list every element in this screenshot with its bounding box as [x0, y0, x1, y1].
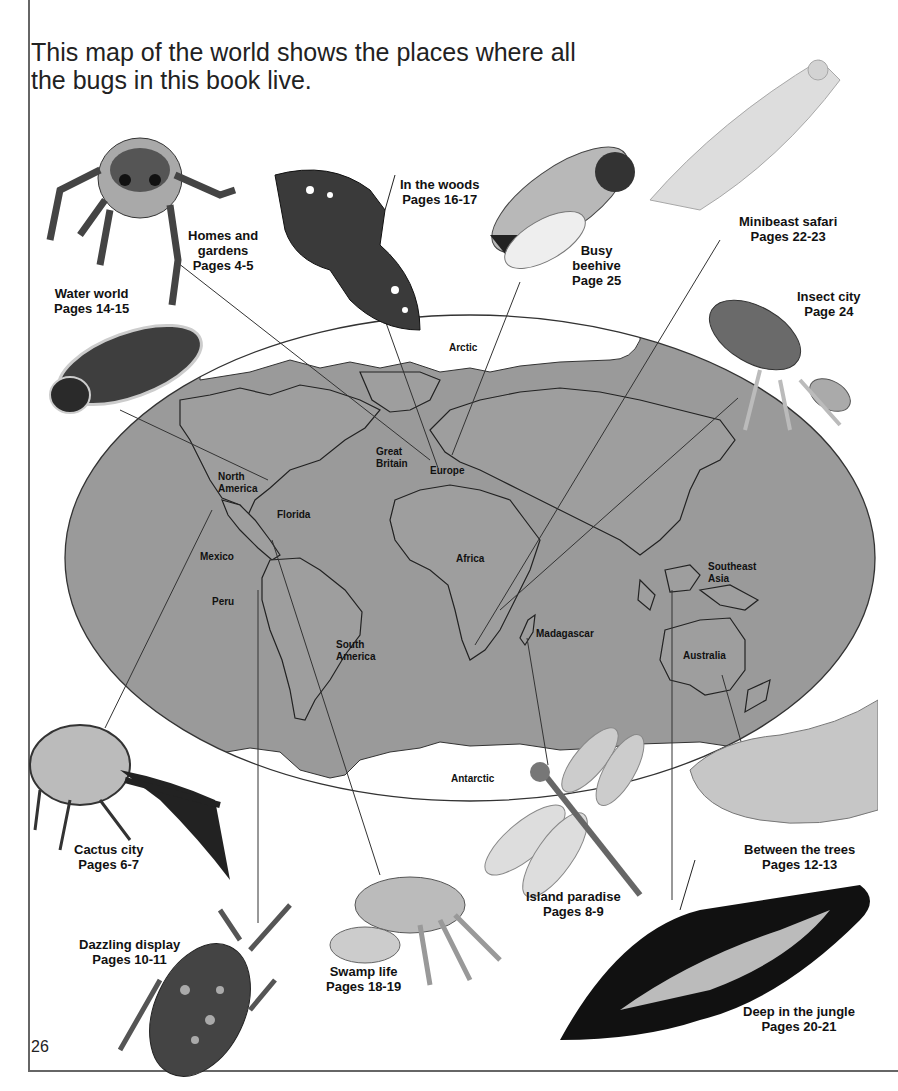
- region-north-america: North America: [218, 471, 257, 495]
- habitat-insect-city: Insect city Page 24: [797, 289, 861, 319]
- region-mexico: Mexico: [200, 551, 234, 563]
- region-southeast-asia: Southeast Asia: [708, 561, 756, 585]
- habitat-minibeast-safari: Minibeast safari Pages 22-23: [739, 214, 837, 244]
- orchid-mantis-illustration: [650, 60, 840, 210]
- region-south-america: South America: [336, 639, 375, 663]
- habitat-dazzling-display: Dazzling display Pages 10-11: [79, 937, 180, 967]
- region-great-britain: Great Britain: [376, 446, 408, 470]
- assassin-bug-illustration: [120, 905, 290, 1091]
- region-africa: Africa: [456, 553, 484, 565]
- region-peru: Peru: [212, 596, 234, 608]
- region-madagascar: Madagascar: [536, 628, 594, 640]
- jumping-spider-illustration: [50, 138, 235, 305]
- page-number: 26: [31, 1038, 49, 1056]
- region-australia: Australia: [683, 650, 726, 662]
- region-europe: Europe: [430, 465, 464, 477]
- habitat-deep-in-the-jungle: Deep in the jungle Pages 20-21: [743, 1004, 855, 1034]
- habitat-busy-beehive: Busy beehive Page 25: [572, 243, 621, 288]
- butterfly-illustration: [275, 170, 420, 330]
- region-arctic: Arctic: [449, 342, 477, 354]
- habitat-island-paradise: Island paradise Pages 8-9: [526, 889, 621, 919]
- habitat-between-the-trees: Between the trees Pages 12-13: [744, 842, 855, 872]
- habitat-cactus-city: Cactus city Pages 6-7: [74, 842, 143, 872]
- habitat-in-the-woods: In the woods Pages 16-17: [400, 177, 479, 207]
- habitat-swamp-life: Swamp life Pages 18-19: [326, 964, 401, 994]
- region-florida: Florida: [277, 509, 310, 521]
- habitat-homes-and-gardens: Homes and gardens Pages 4-5: [188, 228, 258, 273]
- habitat-water-world: Water world Pages 14-15: [54, 286, 129, 316]
- region-antarctic: Antarctic: [451, 773, 494, 785]
